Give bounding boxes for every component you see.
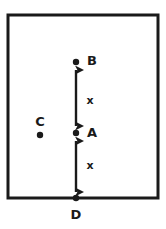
measure-arrow-ab: x bbox=[76, 70, 94, 126]
point-dot-b bbox=[73, 59, 79, 65]
point-b: B bbox=[73, 53, 97, 68]
point-label-b: B bbox=[87, 53, 97, 68]
geometry-figure: x x B A C D bbox=[0, 0, 166, 229]
point-dot-a bbox=[73, 130, 79, 136]
point-a: A bbox=[73, 125, 97, 140]
measure-label-ab: x bbox=[86, 94, 93, 107]
point-dot-d bbox=[73, 195, 79, 201]
rectangle-border bbox=[8, 15, 158, 198]
point-label-c: C bbox=[35, 114, 45, 129]
point-label-d: D bbox=[71, 207, 82, 222]
point-dot-c bbox=[37, 132, 43, 138]
measure-arrow-ad: x bbox=[76, 141, 94, 192]
figure-canvas: x x B A C D bbox=[0, 0, 166, 229]
point-c: C bbox=[35, 114, 45, 139]
measure-label-ad: x bbox=[86, 159, 93, 172]
point-label-a: A bbox=[87, 125, 97, 140]
